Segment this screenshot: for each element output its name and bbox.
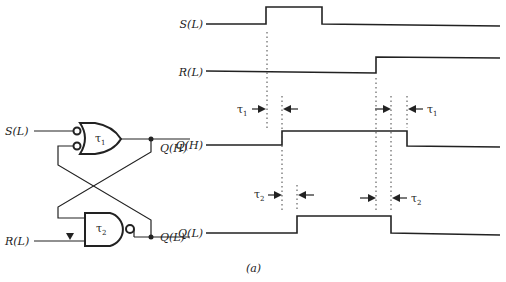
arrow-right-icon bbox=[368, 194, 376, 202]
delay-marker-tau1-right: τ1 bbox=[375, 103, 438, 118]
gate-1: τ1 bbox=[74, 123, 122, 154]
gate-2: τ2 bbox=[85, 213, 134, 246]
inversion-bubble bbox=[74, 143, 81, 150]
waveform-s bbox=[206, 7, 500, 26]
signal-label-s: S(L) bbox=[180, 18, 203, 31]
svg-text:τ2: τ2 bbox=[411, 192, 422, 207]
arrow-left-icon bbox=[408, 105, 416, 113]
svg-text:τ1: τ1 bbox=[237, 103, 248, 118]
inversion-bubble bbox=[126, 225, 134, 233]
signal-label-r: R(L) bbox=[178, 66, 203, 79]
waveform-qh bbox=[206, 131, 500, 147]
waveform-r bbox=[206, 57, 500, 73]
input-label-s: S(L) bbox=[5, 125, 28, 138]
arrow-right-icon bbox=[383, 105, 391, 113]
svg-text:τ2: τ2 bbox=[254, 188, 265, 203]
timing-diagram: S(L) R(L) Q(H) Q(L) τ1 bbox=[176, 7, 500, 240]
junction-dot bbox=[149, 235, 154, 240]
latch-circuit: S(L) τ1 Q(H) R(L) τ2 Q(L) bbox=[4, 123, 190, 248]
arrow-right-icon bbox=[258, 105, 266, 113]
inversion-bubble bbox=[74, 128, 81, 135]
svg-text:τ1: τ1 bbox=[427, 103, 438, 118]
arrow-left-icon bbox=[392, 194, 400, 202]
input-label-r: R(L) bbox=[4, 235, 29, 248]
active-low-indicator-icon bbox=[66, 233, 74, 240]
sr-latch-diagram: S(L) R(L) Q(H) Q(L) τ1 bbox=[0, 0, 506, 282]
waveform-ql bbox=[206, 216, 500, 235]
delay-marker-tau2-left: τ2 bbox=[254, 188, 314, 203]
arrow-right-icon bbox=[274, 191, 282, 199]
arrow-left-icon bbox=[298, 191, 306, 199]
figure-caption: (a) bbox=[246, 262, 261, 275]
arrow-left-icon bbox=[283, 105, 291, 113]
output-label-qh: Q(H) bbox=[160, 142, 187, 155]
output-label-ql: Q(L) bbox=[160, 231, 185, 244]
